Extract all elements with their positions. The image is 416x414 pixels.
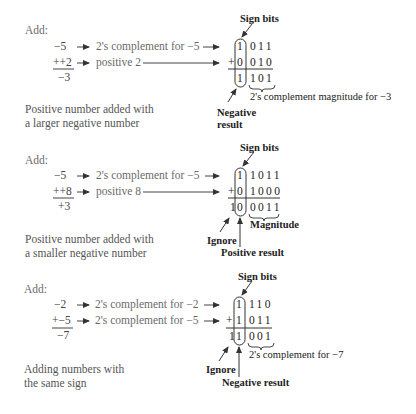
row-2-bits: 011 bbox=[249, 315, 273, 327]
caption-line-2: a smaller negative number bbox=[25, 248, 147, 260]
negative-result-label: Negative result bbox=[222, 378, 289, 389]
decimal-result: −7 bbox=[57, 330, 69, 342]
caption-line-1: Positive number added with bbox=[25, 104, 154, 116]
plus-op: + bbox=[226, 315, 235, 327]
caption-line-2: a larger negative number bbox=[25, 118, 139, 130]
operand-1: −5 bbox=[54, 41, 66, 53]
sign-bits-label: Sign bits bbox=[238, 272, 277, 283]
result-bits: 101 bbox=[250, 73, 274, 85]
caption-line-1: Positive number added with bbox=[25, 234, 154, 246]
result-bits: 0011 bbox=[250, 202, 282, 214]
row-1-bits: 1011 bbox=[250, 170, 282, 182]
row-2-sign-bit: 1 bbox=[236, 315, 244, 327]
sign-bits-label: Sign bits bbox=[240, 143, 279, 154]
caption-line-1: Adding numbers with bbox=[24, 364, 124, 376]
row-1-sign-bit: 1 bbox=[237, 170, 245, 182]
row-2-sign-bit: 0 bbox=[237, 57, 245, 69]
positive-result-label: Positive result bbox=[221, 248, 284, 259]
result-sign-bit: 0 bbox=[237, 202, 245, 214]
operand-1-desc: 2's complement for −2 bbox=[95, 299, 198, 311]
operand-1: −5 bbox=[54, 170, 66, 182]
add-label: Add: bbox=[24, 284, 47, 296]
caption-line-2: the same sign bbox=[24, 378, 87, 390]
sign-bits-label: Sign bits bbox=[240, 14, 279, 25]
add-label: Add: bbox=[25, 25, 48, 37]
operand-2-desc: positive 8 bbox=[96, 186, 141, 198]
ignore-label: Ignore bbox=[207, 236, 237, 247]
row-1-sign-bit: 1 bbox=[237, 41, 245, 53]
plus-op: + bbox=[228, 186, 237, 198]
operand-2: +−5 bbox=[52, 315, 71, 327]
operand-1-desc: 2's complement for −5 bbox=[96, 170, 199, 182]
add-label: Add: bbox=[25, 155, 48, 167]
decimal-result: −3 bbox=[58, 72, 70, 84]
operand-2-desc: 2's complement for −5 bbox=[95, 315, 198, 327]
operand-2: ++8 bbox=[53, 186, 72, 198]
decimal-result: +3 bbox=[58, 201, 70, 213]
operand-2-desc: positive 2 bbox=[96, 57, 141, 69]
row-1-bits: 011 bbox=[250, 41, 274, 53]
row-2-bits: 1000 bbox=[250, 186, 282, 198]
brace-label: 2's complement for −7 bbox=[249, 350, 343, 361]
brace-label: 2's complement magnitude for −3 bbox=[250, 92, 391, 103]
row-2-sign-bit: 0 bbox=[237, 186, 245, 198]
negative-label: Negative bbox=[217, 108, 256, 119]
operand-1-desc: 2's complement for −5 bbox=[96, 41, 199, 53]
operand-1: −2 bbox=[54, 299, 66, 311]
result-sign-bit: 1 bbox=[236, 331, 244, 343]
result-bits: 001 bbox=[249, 331, 273, 343]
brace-label: Magnitude bbox=[250, 220, 299, 231]
operand-2: ++2 bbox=[53, 57, 72, 69]
row-1-bits: 110 bbox=[249, 299, 273, 311]
plus-op: + bbox=[228, 57, 237, 69]
ignore-label: Ignore bbox=[206, 365, 236, 376]
result-sign-bit: 1 bbox=[237, 73, 245, 85]
row-1-sign-bit: 1 bbox=[236, 299, 244, 311]
result-label: result bbox=[217, 120, 242, 131]
row-2-bits: 010 bbox=[250, 57, 274, 69]
